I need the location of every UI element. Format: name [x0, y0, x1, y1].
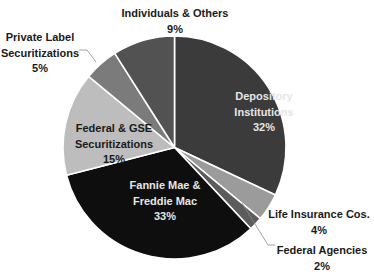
- slice-percent: 5%: [32, 62, 48, 74]
- slice-name: Federal & GSE: [76, 122, 152, 134]
- pie-chart: DepositoryInstitutions32%Life Insurance …: [0, 0, 374, 272]
- slice-percent: 15%: [103, 153, 125, 165]
- slice-percent: 9%: [167, 23, 183, 35]
- slice-percent: 2%: [314, 260, 330, 272]
- label-private-label-securitizations: Private LabelSecuritizations5%: [1, 31, 79, 74]
- slice-name: Private Label: [6, 31, 74, 43]
- label-life-insurance-cos: Life Insurance Cos.4%: [268, 208, 369, 236]
- slice-name: Securitizations: [1, 47, 79, 59]
- slice-name: Securitizations: [75, 138, 153, 150]
- slice-name: Freddie Mac: [133, 195, 197, 207]
- slice-percent: 33%: [154, 210, 176, 222]
- slice-name: Individuals & Others: [122, 7, 229, 19]
- slice-name: Institutions: [234, 106, 293, 118]
- slice-percent: 4%: [311, 224, 327, 236]
- slice-name: Life Insurance Cos.: [268, 208, 369, 220]
- label-federal-agencies: Federal Agencies2%: [277, 244, 368, 272]
- label-individuals-and-others: Individuals & Others9%: [122, 7, 229, 35]
- slice-percent: 32%: [253, 121, 275, 133]
- slice-name: Federal Agencies: [277, 244, 368, 256]
- slice-name: Fannie Mae &: [130, 179, 201, 191]
- slice-name: Depository: [235, 90, 293, 102]
- leader-line-private-label-securitizations: [79, 50, 96, 62]
